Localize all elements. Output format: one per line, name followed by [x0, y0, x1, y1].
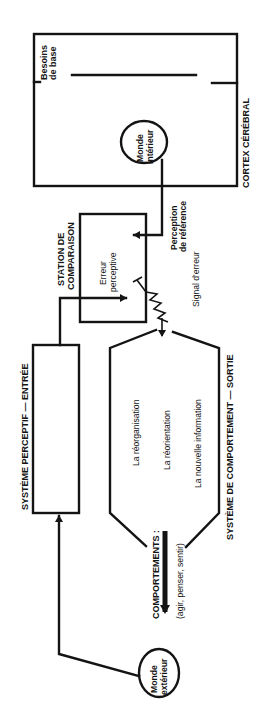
reference-arrow: [134, 160, 162, 235]
cortex-box: Besoins de base: [34, 34, 237, 186]
error-signal-label: Signal d'erreur: [191, 251, 201, 307]
outer-world-node: Monde extérieur: [139, 649, 179, 697]
control-system-diagram: Besoins de base CORTEX CÉRÉBRAL Monde in…: [0, 0, 253, 719]
cortex-label: CORTEX CÉRÉBRAL: [241, 97, 251, 188]
perceptual-error-line2: perceptive: [108, 252, 118, 292]
behavior-item-3: La nouvelle information: [193, 399, 203, 488]
behavior-system-shape: La réorganisation La réorientation La no…: [110, 330, 219, 547]
inner-world-node: Monde intérieur: [121, 121, 167, 164]
besoins-label-2: de base: [48, 46, 58, 80]
behaviors-sublabel: (agir, penser, sentir): [175, 543, 185, 619]
inner-world-line2: intérieur: [145, 129, 155, 164]
behavior-item-2: La réorientation: [162, 410, 172, 470]
comparison-station-title-2: COMPARAISON: [66, 222, 76, 290]
outer-world-line1: Monde: [149, 665, 159, 693]
comparison-station-title-1: STATION DE: [56, 233, 66, 286]
outer-world-line2: extérieur: [159, 658, 169, 695]
behaviors-label: COMPORTEMENTS :: [151, 530, 161, 619]
outer-world-arrow: [59, 516, 139, 676]
comparison-station-box: Erreur perceptive: [80, 214, 146, 322]
error-signal-spring: [133, 277, 168, 336]
behavior-system-label: SYSTÈME DE COMPORTEMENT — SORTIE: [225, 354, 235, 540]
perceptual-system-label: SYSTÈME PERCEPTIF — ENTRÉE: [20, 363, 30, 510]
reference-label-2: de référence: [178, 201, 188, 252]
perceptual-system-box: [33, 345, 79, 513]
perceptual-error-line1: Erreur: [98, 261, 108, 285]
behavior-item-1: La réorganisation: [131, 399, 141, 466]
inner-world-line1: Monde: [135, 134, 145, 162]
